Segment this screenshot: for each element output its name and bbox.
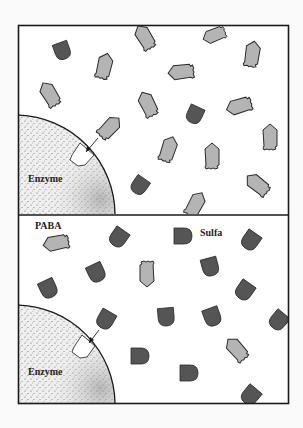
enzyme-label-bottom: Enzyme xyxy=(28,366,62,377)
sulfa-label: Sulfa xyxy=(200,227,222,238)
paba-label: PABA xyxy=(35,220,61,231)
figure xyxy=(0,0,303,428)
panel-top xyxy=(18,22,289,219)
panel-bottom xyxy=(18,216,290,408)
enzyme-label-top: Enzyme xyxy=(28,173,62,184)
